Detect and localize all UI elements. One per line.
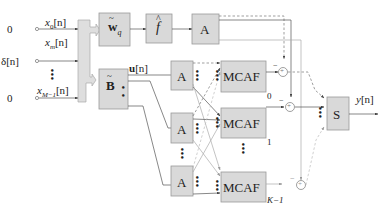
sumk-plus: +: [298, 181, 302, 188]
mcaf1-input-ellipsis: •••: [215, 117, 219, 129]
xM-label: xM−1[n]: [37, 85, 69, 99]
mcaf-label-0: MCAF: [223, 70, 260, 83]
mcaf-index-0: 0: [267, 92, 272, 101]
input-0-source: 0: [7, 24, 13, 35]
a-column-ellipsis: •••: [180, 148, 184, 160]
a-label-0: A: [177, 70, 186, 83]
s-label: S: [333, 108, 340, 121]
s-input-ellipsis: •••: [318, 107, 322, 119]
sum1-plus: +: [287, 103, 291, 110]
mcaf-label-k: MCAF: [223, 181, 260, 194]
b-label: ~B: [106, 79, 115, 92]
mcaf-column-ellipsis: •••: [241, 143, 245, 155]
sum0-minus-sign: −: [273, 62, 278, 70]
sumk-minus-sign: −: [290, 175, 295, 183]
mcaf-index-k: K−1: [267, 196, 284, 205]
mcafk-input-ellipsis: •••: [215, 180, 219, 192]
mcaf-block-diagram: 0 δ[n] 0 x0[n] xm[n] xM−1[n] ••• ~wq ^f …: [0, 0, 391, 208]
input-ellipsis: •••: [50, 69, 54, 81]
mcaf-index-1: 1: [267, 138, 272, 147]
fhat-label: ^f: [156, 21, 160, 35]
input-bus-arrow: [78, 20, 100, 102]
b-ellipsis: ••: [121, 86, 125, 98]
y-label: y[n]: [356, 94, 374, 105]
input-m-source: δ[n]: [1, 56, 19, 67]
ak-output-ellipsis: •••: [195, 176, 199, 188]
a-top-label: A: [200, 23, 209, 36]
a1-output-ellipsis: •••: [195, 123, 199, 135]
sum1-minus-sign: −: [279, 97, 284, 105]
a-label-k: A: [177, 176, 186, 189]
a0-output-ellipsis: •••: [195, 70, 199, 82]
xm-label: xm[n]: [45, 37, 68, 51]
mcaf0-input-ellipsis: •••: [215, 70, 219, 82]
u-label: u[n]: [129, 63, 148, 74]
sum0-plus: +: [280, 68, 284, 75]
wq-label: ~wq: [108, 20, 121, 37]
a-label-1: A: [177, 123, 186, 136]
mcaf-label-1: MCAF: [223, 117, 260, 130]
x0-label: x0[n]: [45, 17, 66, 31]
input-M-source: 0: [7, 93, 13, 104]
